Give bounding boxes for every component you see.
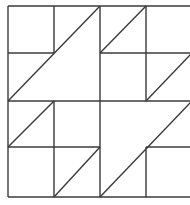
br-big-diagonal-line (100, 101, 190, 197)
bl-diagonal-a-line (8, 101, 54, 147)
tr-diagonal-a-line (100, 6, 146, 53)
quilt-block-diagram (0, 0, 190, 205)
bl-diagonal-b-line (54, 147, 100, 197)
tr-diagonal-b-line (146, 53, 190, 101)
diagram-lines (8, 6, 190, 197)
